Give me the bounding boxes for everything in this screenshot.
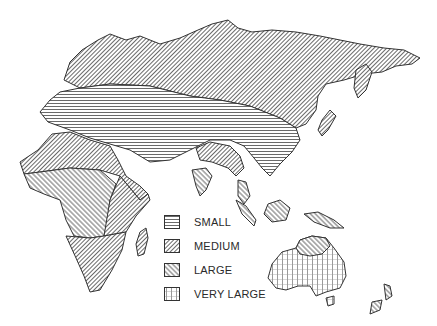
legend-item-medium: MEDIUM — [164, 234, 266, 258]
zone-borneo — [264, 200, 290, 222]
medium-swatch-icon — [164, 239, 180, 253]
zone-japan — [318, 110, 336, 136]
zone-madagascar — [136, 228, 148, 256]
zone-se-asia — [238, 180, 250, 204]
zone-new-guinea — [304, 212, 344, 228]
zone-tasmania — [326, 296, 334, 306]
legend-label: VERY LARGE — [194, 288, 266, 300]
zone-southern-africa — [66, 232, 126, 292]
legend-item-large: LARGE — [164, 258, 266, 282]
zone-new-zealand — [384, 284, 392, 300]
very-large-swatch-icon — [164, 287, 180, 301]
legend-item-very-large: VERY LARGE — [164, 282, 266, 306]
zone-new-zealand-south — [370, 300, 382, 314]
legend-item-small: SMALL — [164, 210, 266, 234]
large-swatch-icon — [164, 263, 180, 277]
zone-southern-india — [192, 168, 212, 196]
zone-kamchatka — [354, 64, 372, 98]
legend: SMALL MEDIUM LARGE VERY LARGE — [164, 210, 266, 306]
small-swatch-icon — [164, 215, 180, 229]
legend-label: SMALL — [194, 216, 231, 228]
legend-label: MEDIUM — [194, 240, 240, 252]
legend-label: LARGE — [194, 264, 232, 276]
zone-central-africa — [24, 168, 116, 238]
